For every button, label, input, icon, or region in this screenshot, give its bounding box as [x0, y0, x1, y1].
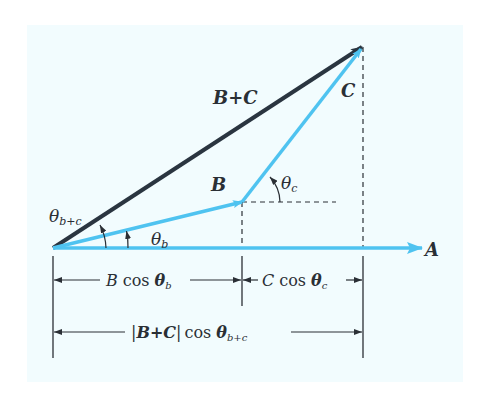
- vector-projection-diagram: A B C B+C θb+c θb θc Bcosθb Ccosθc |B+C|…: [0, 0, 485, 401]
- label-theta-c: θc: [281, 173, 297, 195]
- label-theta-bc: θb+c: [49, 206, 82, 228]
- label-vector-c: C: [341, 80, 356, 101]
- label-c-cos-theta-c: Ccosθc: [262, 271, 328, 291]
- angle-arc-theta-b: [127, 231, 129, 248]
- label-b-cos-theta-b: Bcosθb: [105, 271, 172, 291]
- label-vector-a: A: [423, 239, 439, 260]
- label-vector-b: B: [210, 174, 226, 195]
- label-vector-b-plus-c: B+C: [212, 87, 258, 108]
- dashed-guides: [242, 47, 363, 248]
- vector-b-plus-c: [53, 47, 362, 248]
- label-sum-cos-theta-bc: |B+C|cosθb+c: [131, 323, 248, 343]
- label-theta-b: θb: [151, 229, 168, 251]
- vector-c: [242, 49, 361, 202]
- angle-arc-theta-c: [270, 177, 280, 202]
